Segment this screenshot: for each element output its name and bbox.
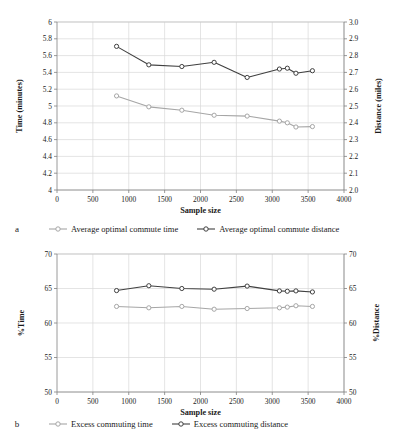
svg-text:70: 70 (45, 250, 53, 259)
chart-panel-a: 44.24.44.64.855.25.45.65.862.02.12.22.32… (0, 0, 402, 222)
svg-text:500: 500 (87, 397, 98, 406)
svg-text:0: 0 (55, 397, 59, 406)
legend-panel-b: b Excess commuting timeExcess commuting … (0, 413, 402, 435)
svg-text:6: 6 (48, 18, 52, 27)
legend-item[interactable]: Excess commuting time (48, 419, 153, 429)
svg-text:4.2: 4.2 (43, 169, 53, 178)
svg-text:3000: 3000 (265, 397, 280, 406)
svg-text:5.6: 5.6 (43, 51, 53, 60)
svg-text:5.4: 5.4 (43, 68, 53, 77)
svg-text:2500: 2500 (229, 195, 244, 204)
svg-text:Time (minutes): Time (minutes) (15, 79, 24, 133)
svg-text:2.2: 2.2 (349, 152, 359, 161)
legend-label: Excess commuting time (71, 420, 153, 429)
legend-marker-icon (48, 419, 68, 429)
svg-text:4.4: 4.4 (43, 152, 53, 161)
legend-label: Excess commuting distance (194, 420, 288, 429)
svg-text:65: 65 (45, 284, 53, 293)
svg-text:2.0: 2.0 (349, 186, 359, 195)
svg-text:2.9: 2.9 (349, 34, 359, 43)
svg-text:4000: 4000 (337, 195, 352, 204)
svg-text:3.0: 3.0 (349, 18, 359, 27)
svg-text:2.6: 2.6 (349, 85, 359, 94)
line-chart-a: 44.24.44.64.855.25.45.65.862.02.12.22.32… (0, 0, 402, 222)
svg-text:2.1: 2.1 (349, 169, 359, 178)
svg-text:1500: 1500 (157, 397, 172, 406)
svg-text:1500: 1500 (157, 195, 172, 204)
svg-text:2.4: 2.4 (349, 118, 359, 127)
figure-container: 44.24.44.64.855.25.45.65.862.02.12.22.32… (0, 0, 402, 446)
svg-text:5.8: 5.8 (43, 34, 53, 43)
svg-text:Distance (miles): Distance (miles) (374, 78, 383, 134)
svg-text:50: 50 (45, 388, 53, 397)
legend-marker-icon (171, 419, 191, 429)
legend-item[interactable]: Excess commuting distance (171, 419, 288, 429)
panel-letter-b: b (0, 419, 34, 429)
svg-text:60: 60 (45, 319, 53, 328)
svg-text:55: 55 (349, 353, 357, 362)
svg-text:%Time: %Time (17, 310, 26, 337)
svg-text:500: 500 (87, 195, 98, 204)
svg-text:4.6: 4.6 (43, 135, 53, 144)
svg-text:%Distance: %Distance (372, 304, 381, 343)
svg-text:4.8: 4.8 (43, 118, 53, 127)
svg-text:2.8: 2.8 (349, 51, 359, 60)
svg-text:50: 50 (349, 388, 357, 397)
svg-text:3500: 3500 (301, 397, 316, 406)
svg-text:4000: 4000 (337, 397, 352, 406)
svg-text:60: 60 (349, 319, 357, 328)
svg-text:2.7: 2.7 (349, 68, 359, 77)
svg-text:3000: 3000 (265, 195, 280, 204)
svg-text:2500: 2500 (229, 397, 244, 406)
svg-text:0: 0 (55, 195, 59, 204)
svg-text:65: 65 (349, 284, 357, 293)
svg-text:4: 4 (48, 186, 52, 195)
svg-text:70: 70 (349, 250, 357, 259)
svg-text:1000: 1000 (121, 397, 136, 406)
svg-text:Sample size: Sample size (180, 206, 221, 215)
svg-text:55: 55 (45, 353, 53, 362)
svg-text:2.5: 2.5 (349, 102, 359, 111)
svg-text:5: 5 (48, 102, 52, 111)
legend-items-b: Excess commuting timeExcess commuting di… (34, 419, 402, 429)
svg-text:1000: 1000 (121, 195, 136, 204)
svg-text:2.3: 2.3 (349, 135, 359, 144)
svg-text:5.2: 5.2 (43, 85, 53, 94)
svg-text:2000: 2000 (193, 195, 208, 204)
svg-text:3500: 3500 (301, 195, 316, 204)
svg-text:2000: 2000 (193, 397, 208, 406)
